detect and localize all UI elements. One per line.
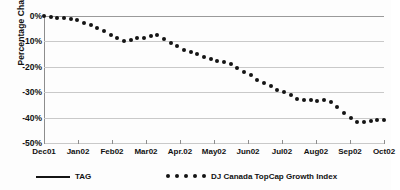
data-point (182, 48, 186, 52)
data-point (109, 33, 113, 37)
data-point (329, 100, 333, 104)
data-point (82, 21, 86, 25)
data-point (209, 57, 213, 61)
data-point (222, 60, 226, 64)
data-point (322, 98, 326, 102)
data-point (362, 120, 366, 124)
x-axis-tick-mark (316, 140, 317, 144)
data-point (62, 16, 66, 20)
gridline (44, 67, 384, 68)
legend-item-tag[interactable]: TAG (36, 172, 91, 181)
data-point (162, 37, 166, 41)
data-point (249, 73, 253, 77)
gridline (44, 118, 384, 119)
x-axis-tick-mark (78, 140, 79, 144)
data-point (282, 90, 286, 94)
data-point (135, 36, 139, 40)
data-point (275, 88, 279, 92)
y-axis-tick: -30% (2, 87, 42, 97)
data-point (69, 17, 73, 21)
legend-line-marker-icon (36, 176, 70, 178)
y-axis-tick: -40% (2, 113, 42, 123)
data-point (115, 36, 119, 40)
data-point (49, 15, 53, 19)
x-axis-tick-mark (350, 140, 351, 144)
data-point (175, 44, 179, 48)
data-point (255, 78, 259, 82)
x-axis-tick-mark (146, 140, 147, 144)
data-point (142, 36, 146, 40)
x-axis-tick-mark (384, 140, 385, 144)
data-point (55, 16, 59, 20)
data-point (315, 99, 319, 103)
data-point (382, 118, 386, 122)
legend-dot-marker-icon (166, 174, 206, 179)
data-point (375, 118, 379, 122)
gridline (44, 16, 384, 17)
data-point (89, 23, 93, 27)
data-point (242, 70, 246, 74)
data-point (295, 97, 299, 101)
data-point (122, 39, 126, 43)
x-axis-tick-mark (180, 140, 181, 144)
legend-label-dj: DJ Canada TopCap Growth Index (211, 172, 337, 181)
x-axis-tick: Oct02 (361, 147, 400, 156)
x-axis-tick-mark (112, 140, 113, 144)
data-point (262, 81, 266, 85)
chart-legend: TAG DJ Canada TopCap Growth Index (0, 168, 391, 190)
y-axis-tick: -20% (2, 62, 42, 72)
data-point (349, 116, 353, 120)
data-point (202, 55, 206, 59)
data-point (169, 41, 173, 45)
x-axis-tick-mark (282, 140, 283, 144)
data-point (355, 120, 359, 124)
data-point (235, 66, 239, 70)
data-point (302, 98, 306, 102)
x-axis-tick-mark (44, 140, 45, 144)
data-point (342, 111, 346, 115)
data-point (149, 34, 153, 38)
data-point (289, 93, 293, 97)
data-point (75, 18, 79, 22)
y-axis-tick: 0% (2, 11, 42, 21)
data-point (42, 14, 46, 18)
data-point (369, 119, 373, 123)
data-point (335, 105, 339, 109)
data-point (309, 98, 313, 102)
data-point (229, 62, 233, 66)
data-point (195, 52, 199, 56)
y-axis-tick: -10% (2, 36, 42, 46)
x-axis-tick-mark (214, 140, 215, 144)
data-point (155, 33, 159, 37)
data-point (95, 26, 99, 30)
plot-area (44, 16, 384, 143)
data-point (269, 84, 273, 88)
legend-item-dj-canada-topcap-growth-index[interactable]: DJ Canada TopCap Growth Index (166, 172, 337, 181)
gridline (44, 41, 384, 42)
data-point (102, 29, 106, 33)
x-axis-tick-mark (248, 140, 249, 144)
data-point (215, 59, 219, 63)
data-point (189, 50, 193, 54)
gridline (44, 92, 384, 93)
legend-label-tag: TAG (75, 172, 91, 181)
